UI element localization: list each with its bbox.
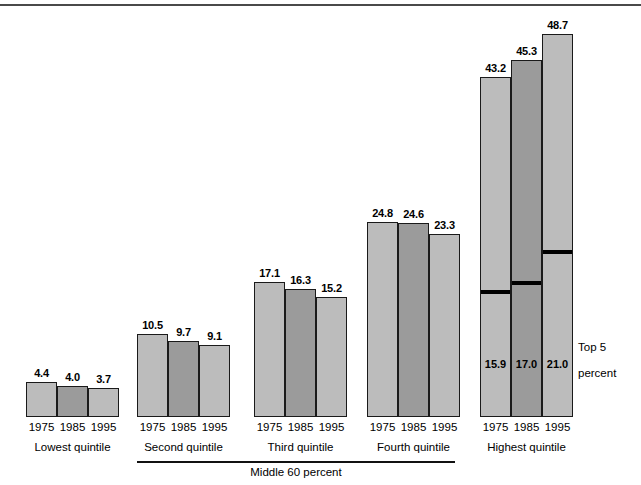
value-label-fourth-quintile-1995: 23.3 <box>423 219 466 231</box>
bar-third-quintile-1995 <box>316 297 347 417</box>
chart-plot-area: 4.419754.019853.71995Lowest quintile10.5… <box>0 0 641 485</box>
bar-fourth-quintile-1985 <box>398 223 429 417</box>
year-tick-highest-quintile-1995: 1995 <box>538 421 577 433</box>
year-tick-second-quintile-1995: 1995 <box>195 421 234 433</box>
bar-second-quintile-1985 <box>168 341 199 417</box>
year-tick-fourth-quintile-1995: 1995 <box>425 421 464 433</box>
value-label-second-quintile-1995: 9.1 <box>193 330 236 342</box>
top-5-percent-label-line2: percent <box>578 367 616 379</box>
bar-third-quintile-1985 <box>285 289 316 417</box>
chart-container: 4.419754.019853.71995Lowest quintile10.5… <box>0 0 641 485</box>
top-5-percent-label-line1: Top 5 <box>578 341 606 353</box>
top-5-percent-label: Top 5 percent <box>578 328 616 380</box>
value-label-lowest-quintile-1995: 3.7 <box>82 373 125 385</box>
top-5-percent-value-1995: 21.0 <box>539 358 576 370</box>
year-tick-third-quintile-1995: 1995 <box>312 421 351 433</box>
bar-lowest-quintile-1975 <box>26 382 57 417</box>
top-5-percent-marker-1975 <box>481 290 510 294</box>
bar-second-quintile-1975 <box>137 334 168 417</box>
value-label-third-quintile-1995: 15.2 <box>310 282 353 294</box>
bar-lowest-quintile-1995 <box>88 388 119 417</box>
middle-60-bracket-label: Middle 60 percent <box>206 466 386 478</box>
top-5-percent-marker-1985 <box>512 281 541 285</box>
year-tick-lowest-quintile-1995: 1995 <box>84 421 123 433</box>
value-label-highest-quintile-1995: 48.7 <box>536 19 579 31</box>
bar-lowest-quintile-1985 <box>57 386 88 417</box>
bar-third-quintile-1975 <box>254 282 285 417</box>
top-5-percent-marker-1995 <box>543 250 572 254</box>
bar-fourth-quintile-1975 <box>367 222 398 417</box>
group-label-highest-quintile: Highest quintile <box>450 441 603 453</box>
bar-fourth-quintile-1995 <box>429 234 460 417</box>
bar-second-quintile-1995 <box>199 345 230 417</box>
middle-60-bracket-line <box>137 461 455 463</box>
